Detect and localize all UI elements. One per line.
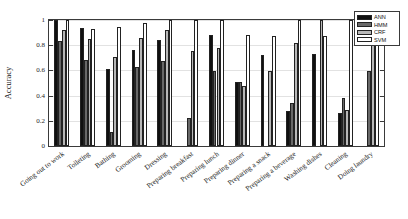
bar-svm-7 — [246, 35, 250, 147]
y-tick-label: 0.8 — [36, 41, 45, 49]
legend-item-ann[interactable]: ANN — [357, 14, 397, 21]
x-category-label: Going out to work — [19, 150, 66, 188]
legend-item-crf[interactable]: CRF — [357, 29, 397, 36]
bar-svm-8 — [272, 36, 276, 146]
legend-label-hmm: HMM — [374, 22, 387, 28]
legend-swatch-hmm — [357, 22, 372, 27]
y-tick-mark — [49, 20, 53, 21]
y-tick-label: 1 — [42, 16, 46, 24]
legend-item-svm[interactable]: SVM — [357, 36, 397, 43]
y-tick-mark — [49, 121, 53, 122]
legend-label-crf: CRF — [374, 29, 386, 35]
legend-label-ann: ANN — [374, 14, 386, 20]
plot-area: 00.20.40.60.81 — [48, 19, 385, 147]
legend-swatch-ann — [357, 15, 372, 20]
bar-svm-1 — [91, 29, 95, 146]
legend-label-svm: SVM — [374, 37, 386, 43]
figure-canvas: Accuracy 00.20.40.60.81 ANN HMM CRF SVM … — [0, 0, 408, 219]
y-tick-mark — [49, 70, 53, 71]
bar-svm-5 — [194, 20, 198, 146]
y-tick-label: 0.6 — [36, 66, 45, 74]
bar-svm-2 — [117, 27, 121, 146]
legend-item-hmm[interactable]: HMM — [357, 21, 397, 28]
bar-ann-8 — [261, 55, 265, 146]
y-gridline — [49, 45, 384, 46]
bar-ann-10 — [312, 54, 316, 146]
chart-legend: ANN HMM CRF SVM — [354, 11, 400, 46]
y-tick-mark — [380, 146, 384, 147]
y-tick-mark — [49, 146, 53, 147]
bar-svm-4 — [169, 20, 173, 146]
x-category-label: Grooming — [114, 150, 142, 174]
y-tick-label: 0.4 — [36, 92, 45, 100]
bar-svm-0 — [66, 20, 70, 146]
y-tick-mark — [49, 45, 53, 46]
y-tick-mark — [380, 121, 384, 122]
bar-svm-3 — [143, 23, 147, 146]
bar-svm-6 — [220, 20, 224, 146]
y-tick-label: 0.2 — [36, 117, 45, 125]
y-gridline — [49, 20, 384, 21]
bar-svm-10 — [323, 36, 327, 146]
y-tick-mark — [380, 96, 384, 97]
x-category-label: Toileting — [66, 150, 91, 172]
y-axis-title: Accuracy — [3, 67, 13, 100]
bar-svm-9 — [298, 20, 302, 146]
y-tick-mark — [380, 70, 384, 71]
y-tick-mark — [49, 96, 53, 97]
legend-swatch-svm — [357, 37, 372, 42]
legend-swatch-crf — [357, 30, 372, 35]
bar-svm-11 — [349, 20, 353, 146]
y-tick-label: 0 — [42, 142, 46, 150]
